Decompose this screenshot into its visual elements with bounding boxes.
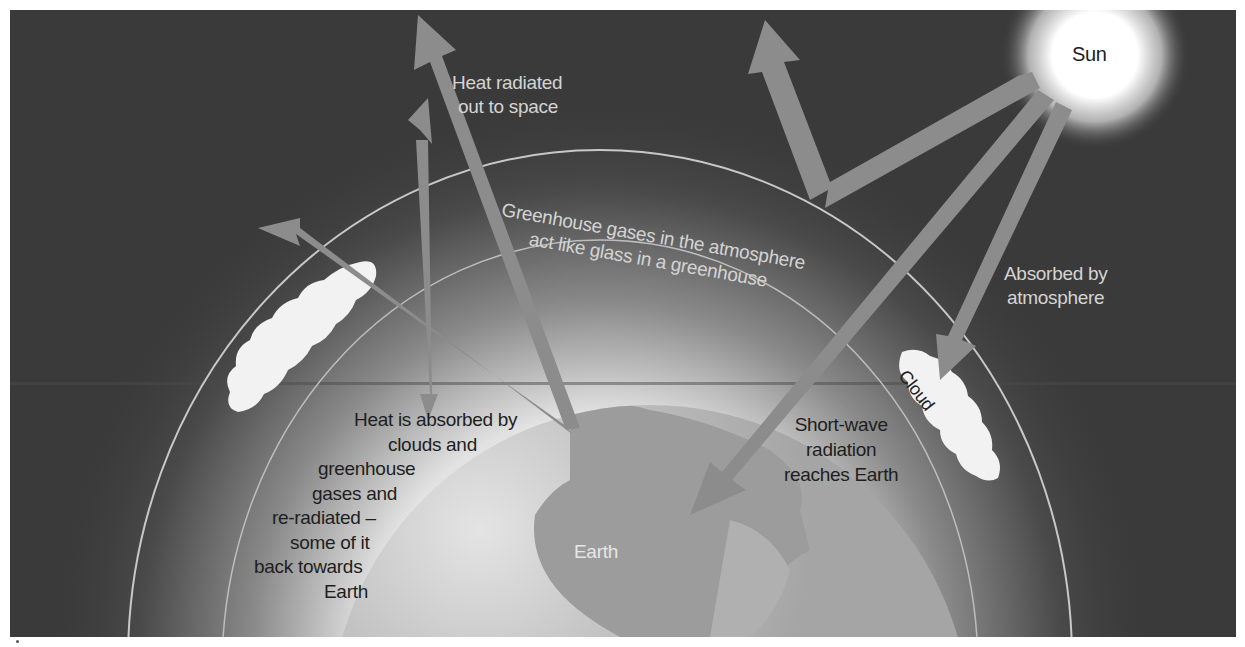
- diagram-graphics: [10, 10, 1236, 637]
- heat-absorbed-line-1: Heat is absorbed by: [254, 408, 524, 433]
- short-wave-line-3: reaches Earth: [784, 462, 898, 487]
- heat-absorbed-line-4: gases and: [254, 482, 524, 507]
- heat-absorbed-label: Heat is absorbed by clouds and greenhous…: [254, 408, 524, 604]
- heat-absorbed-line-5: re-radiated –: [254, 506, 524, 531]
- earth-label: Earth: [574, 540, 618, 564]
- heat-absorbed-line-3: greenhouse: [254, 457, 524, 482]
- heat-absorbed-line-7: back towards: [254, 555, 524, 580]
- heat-absorbed-line-6: some of it: [254, 531, 524, 556]
- absorbed-line-2: atmosphere: [1004, 286, 1107, 310]
- heat-radiated-label: Heat radiated out to space: [452, 71, 562, 119]
- scan-line: [10, 382, 1236, 385]
- greenhouse-effect-diagram: Sun Heat radiated out to space Greenhous…: [10, 10, 1236, 637]
- short-wave-line-2: radiation: [784, 437, 898, 462]
- heat-radiated-line-2: out to space: [452, 95, 562, 119]
- short-wave-label: Short-wave radiation reaches Earth: [784, 412, 898, 487]
- sun-label: Sun: [1072, 42, 1107, 66]
- heat-radiated-line-1: Heat radiated: [452, 71, 562, 95]
- heat-absorbed-line-8: Earth: [254, 580, 524, 605]
- absorbed-by-atmosphere-label: Absorbed by atmosphere: [1004, 262, 1107, 310]
- short-wave-line-1: Short-wave: [784, 412, 898, 437]
- absorbed-line-1: Absorbed by: [1004, 262, 1107, 286]
- footer-bullet: [16, 640, 19, 643]
- heat-absorbed-line-2: clouds and: [254, 433, 524, 458]
